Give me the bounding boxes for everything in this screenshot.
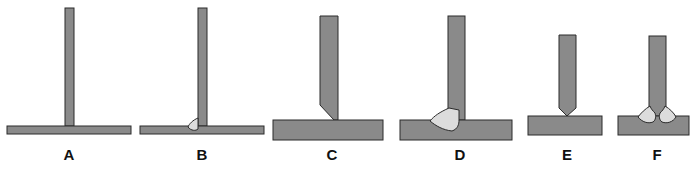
fillet-weld-bead bbox=[188, 118, 198, 130]
figure-e: E bbox=[528, 35, 602, 163]
figure-label-f: F bbox=[652, 146, 661, 163]
figure-label-c: C bbox=[327, 146, 338, 163]
vertical-plate bbox=[448, 16, 465, 120]
base-plate bbox=[528, 116, 602, 135]
base-plate bbox=[7, 126, 131, 134]
figure-f: F bbox=[618, 36, 689, 163]
beveled-vertical-plate bbox=[320, 16, 338, 120]
figure-label-a: A bbox=[64, 146, 75, 163]
vertical-plate bbox=[198, 8, 207, 126]
figure-label-d: D bbox=[455, 146, 466, 163]
figure-a: A bbox=[7, 8, 131, 163]
figure-label-b: B bbox=[197, 146, 208, 163]
figure-d: D bbox=[400, 16, 512, 163]
figure-c: C bbox=[273, 16, 383, 163]
figure-b: B bbox=[140, 8, 264, 163]
double-beveled-vertical-plate bbox=[559, 35, 576, 116]
vertical-plate bbox=[649, 36, 666, 116]
base-plate bbox=[273, 120, 383, 140]
weld-joint-diagram: A B C D E F bbox=[0, 0, 690, 170]
vertical-plate bbox=[65, 8, 74, 126]
base-plate bbox=[140, 126, 264, 134]
figure-label-e: E bbox=[562, 146, 572, 163]
